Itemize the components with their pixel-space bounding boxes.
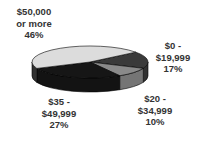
label-percent: 46% <box>14 29 54 41</box>
label-0-19999: $0 - $19,999 17% <box>152 40 194 75</box>
label-range-line2: $34,999 <box>134 105 176 117</box>
label-20-34999: $20 - $34,999 10% <box>134 93 176 128</box>
label-range-line1: $0 - <box>152 40 194 52</box>
label-range-line1: $35 - <box>38 96 80 108</box>
pie-top <box>32 46 148 78</box>
label-range-line1: $20 - <box>134 93 176 105</box>
label-range-line2: $49,999 <box>38 108 80 120</box>
label-range-line2: $19,999 <box>152 52 194 64</box>
label-percent: 17% <box>152 63 194 75</box>
label-range-line1: $50,000 <box>14 6 54 18</box>
label-50000-or-more: $50,000 or more 46% <box>14 6 54 41</box>
label-percent: 10% <box>134 116 176 128</box>
label-percent: 27% <box>38 119 80 131</box>
label-35-49999: $35 - $49,999 27% <box>38 96 80 131</box>
label-range-line2: or more <box>14 18 54 30</box>
